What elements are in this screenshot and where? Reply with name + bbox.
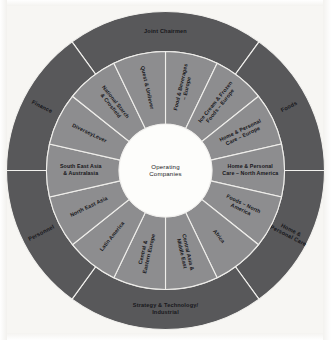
- hub-label: OperatingCompanies: [149, 163, 182, 177]
- center-hub: OperatingCompanies: [119, 124, 212, 217]
- diagram-page: Joint ChairmenFoodsHome &Personal CareSt…: [0, 0, 331, 340]
- operating-companies-wheel: Joint ChairmenFoodsHome &Personal CareSt…: [0, 0, 331, 340]
- inner-label-south-east-asia-australasia: South East Asia& Australasia: [60, 164, 102, 176]
- inner-label-home-personal-care-north-america: Home & PersonalCare – North America: [222, 164, 278, 176]
- outer-label-joint-chairmen: Joint Chairmen: [144, 28, 187, 34]
